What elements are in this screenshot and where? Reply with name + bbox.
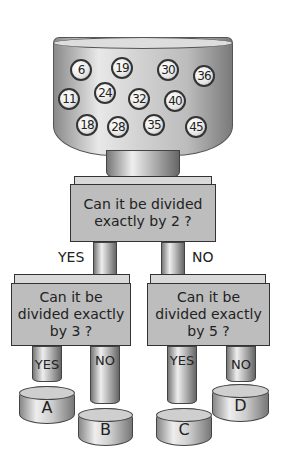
no-label: NO [95, 353, 115, 368]
container-rim [53, 37, 233, 49]
number-ball: 36 [193, 65, 215, 87]
bin-top [156, 408, 212, 422]
number-ball: 11 [58, 88, 80, 110]
number-ball: 40 [164, 90, 186, 112]
yes-pipe: YES [32, 346, 62, 382]
no-pipe: NO [226, 346, 256, 382]
decision-box-divisible-by-5: Can it be divided exactly by 5 ? [147, 283, 270, 346]
bin-label: A [42, 398, 53, 417]
number-ball: 6 [70, 59, 92, 81]
no-pipe [161, 242, 185, 278]
yes-label: YES [35, 357, 59, 372]
yes-label: YES [170, 353, 194, 368]
bin-label: C [178, 420, 189, 439]
number-ball: 18 [76, 114, 98, 136]
decision-box-divisible-by-3: Can it be divided exactly by 3 ? [11, 283, 131, 346]
outlet-pipe [106, 150, 180, 178]
bin-top [212, 384, 269, 398]
number-ball: 30 [157, 59, 179, 81]
number-ball: 24 [94, 82, 116, 104]
number-ball: 35 [143, 114, 165, 136]
decision-box-divisible-by-2: Can it be divided exactly by 2 ? [70, 184, 216, 242]
no-pipe: NO [90, 346, 120, 404]
question-text: Can it be divided exactly by 2 ? [75, 196, 211, 230]
bin-label: D [234, 396, 246, 415]
yes-pipe [93, 242, 117, 278]
number-ball: 19 [111, 57, 133, 79]
number-ball: 32 [128, 88, 150, 110]
bin-top [19, 386, 75, 400]
yes-pipe: YES [167, 346, 197, 404]
number-ball: 28 [107, 116, 129, 138]
no-label: NO [231, 357, 251, 372]
question-text: Can it be divided exactly by 5 ? [150, 289, 267, 340]
number-ball: 45 [185, 116, 207, 138]
bin-label: B [100, 420, 111, 439]
yes-label: YES [58, 249, 84, 265]
no-label: NO [192, 249, 214, 265]
bin-top [78, 408, 133, 422]
question-text: Can it be divided exactly by 3 ? [14, 289, 128, 340]
